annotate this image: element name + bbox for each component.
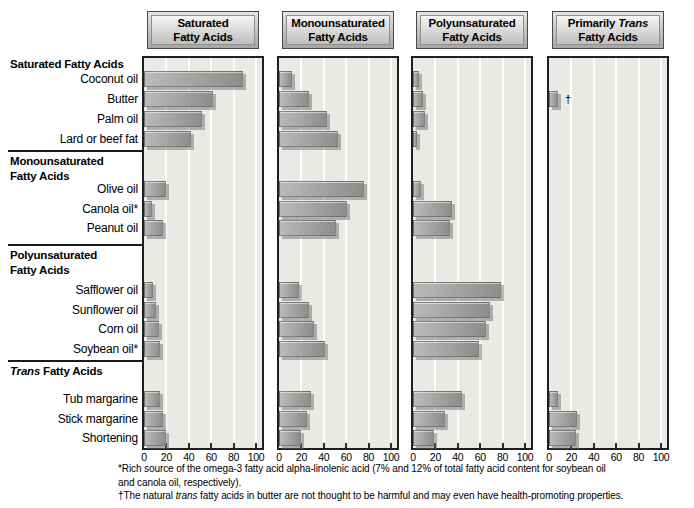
- bar: [549, 411, 577, 427]
- group-divider: [8, 244, 145, 246]
- gridline: [660, 58, 662, 448]
- text-segment: Saturated: [177, 17, 228, 29]
- row-label: Sunflower oil: [0, 302, 138, 318]
- axis-tick: [638, 443, 640, 448]
- bar: [144, 131, 191, 147]
- panel-header: SaturatedFatty Acids: [147, 11, 259, 49]
- axis-tick: [323, 443, 325, 448]
- row-label: Shortening: [0, 430, 138, 446]
- gridline: [434, 58, 436, 448]
- panel-title-line: Saturated: [177, 16, 228, 30]
- text-segment: *Rich source of the omega-3 fatty acid a…: [118, 463, 606, 474]
- bar: [279, 131, 338, 147]
- text-segment: Fatty Acids: [308, 31, 367, 43]
- bar: [144, 321, 159, 337]
- row-label: Lard or beef fat: [0, 131, 138, 147]
- gridline: [368, 58, 370, 448]
- fatty-acid-composition-figure: Saturated Fatty AcidsMonounsaturatedFatt…: [0, 0, 694, 508]
- panel-title: MonounsaturatedFatty Acids: [286, 15, 390, 45]
- gridline: [502, 58, 504, 448]
- text-segment: Trans: [10, 365, 40, 377]
- bar: [279, 411, 307, 427]
- gridline: [479, 58, 481, 448]
- axis-tick: [368, 443, 370, 448]
- bar: [279, 91, 309, 107]
- text-segment: Fatty Acids: [578, 31, 637, 43]
- group-heading-line: Fatty Acids: [10, 263, 97, 278]
- bar: [413, 411, 445, 427]
- plot-area: [411, 56, 533, 450]
- group-heading-line: Polyunsaturated: [10, 248, 97, 263]
- bar: [279, 201, 347, 217]
- group-heading: MonounsaturatedFatty Acids: [10, 154, 103, 184]
- axis-tick: [479, 443, 481, 448]
- axis-tick: [457, 443, 459, 448]
- panel-title: Primarily TransFatty Acids: [556, 15, 660, 45]
- gridline: [615, 58, 617, 448]
- group-heading: Trans Fatty Acids: [10, 364, 102, 379]
- text-segment: Fatty Acids: [173, 31, 232, 43]
- panel-title-line: Monounsaturated: [291, 16, 384, 30]
- axis-tick: [593, 443, 595, 448]
- bar: [144, 91, 213, 107]
- text-segment: Fatty Acids: [40, 365, 102, 377]
- bar: [413, 131, 417, 147]
- text-segment: Polyunsaturated: [10, 249, 97, 261]
- bar: [279, 302, 309, 318]
- text-segment: Monounsaturated: [10, 155, 103, 167]
- panel-header: PolyunsaturatedFatty Acids: [416, 11, 528, 49]
- bar: [413, 201, 452, 217]
- panel-title-line: Fatty Acids: [173, 30, 232, 44]
- gridline: [255, 58, 257, 448]
- axis-tick: [615, 443, 617, 448]
- panel-header: MonounsaturatedFatty Acids: [282, 11, 394, 49]
- text-segment: fatty acids in butter are not thought to…: [197, 490, 623, 501]
- panel-header: Primarily TransFatty Acids: [552, 11, 664, 49]
- bar: [279, 321, 314, 337]
- bar: [413, 391, 462, 407]
- bar: [279, 391, 311, 407]
- panel-title: SaturatedFatty Acids: [151, 15, 255, 45]
- bar: [413, 181, 421, 197]
- bar: [413, 91, 423, 107]
- row-label: Soybean oil*: [0, 341, 138, 357]
- row-label: Peanut oil: [0, 220, 138, 236]
- bar: [413, 282, 501, 298]
- axis-tick: [255, 443, 257, 448]
- gridline: [524, 58, 526, 448]
- panel-title-line: Primarily Trans: [568, 16, 649, 30]
- footnotes: *Rich source of the omega-3 fatty acid a…: [118, 462, 693, 503]
- axis-tick: [233, 443, 235, 448]
- group-heading: Saturated Fatty Acids: [10, 57, 124, 72]
- row-label: Coconut oil: [0, 71, 138, 87]
- bar: [413, 302, 490, 318]
- row-label: Safflower oil: [0, 282, 138, 298]
- footnote-line: †The natural trans fatty acids in butter…: [118, 489, 693, 503]
- bar: [413, 430, 434, 446]
- axis-tick: [345, 443, 347, 448]
- panel-title-line: Polyunsaturated: [428, 16, 515, 30]
- text-segment: Fatty Acids: [10, 264, 69, 276]
- bar: [279, 430, 301, 446]
- bar: [144, 220, 163, 236]
- text-segment: Primarily: [568, 17, 618, 29]
- axis-tick: [188, 443, 190, 448]
- bar: [144, 391, 160, 407]
- gridline: [457, 58, 459, 448]
- panel-title-line: Fatty Acids: [578, 30, 637, 44]
- row-label: Butter: [0, 91, 138, 107]
- bar: [279, 71, 292, 87]
- row-label: Palm oil: [0, 111, 138, 127]
- gridline: [345, 58, 347, 448]
- bar: [413, 341, 479, 357]
- gridline: [593, 58, 595, 448]
- group-divider: [8, 360, 145, 362]
- bar: [144, 282, 153, 298]
- row-label: Stick margarine: [0, 411, 138, 427]
- bar: [279, 341, 325, 357]
- group-heading-line: Saturated Fatty Acids: [10, 57, 124, 72]
- row-label: Corn oil: [0, 321, 138, 337]
- text-segment: Trans: [618, 17, 648, 29]
- bar: [279, 282, 299, 298]
- bar: [413, 111, 425, 127]
